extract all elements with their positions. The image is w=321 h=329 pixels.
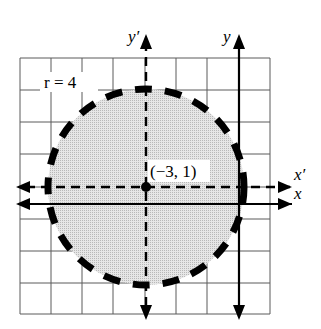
x-axis-arrow-right	[278, 198, 292, 210]
y-axis-arrow-up	[233, 34, 245, 49]
y-prime-axis-label: y′	[126, 27, 140, 46]
figure-svg: r = 4 (−3, 1) y′ y x′ x	[0, 0, 321, 329]
y-axis-label: y	[221, 27, 231, 46]
radius-label: r = 4	[44, 73, 77, 92]
x-prime-axis-label: x′	[293, 165, 306, 184]
x-axis-label: x	[293, 184, 302, 203]
center-label-group: (−3, 1)	[148, 160, 210, 182]
radius-label-group: r = 4	[40, 72, 98, 92]
x-prime-axis-arrow-right	[278, 181, 292, 193]
center-point-label: (−3, 1)	[150, 162, 196, 181]
coordinate-geometry-figure: r = 4 (−3, 1) y′ y x′ x	[0, 0, 321, 329]
center-point-marker	[141, 182, 151, 192]
y-prime-axis-arrow-up	[140, 34, 152, 49]
